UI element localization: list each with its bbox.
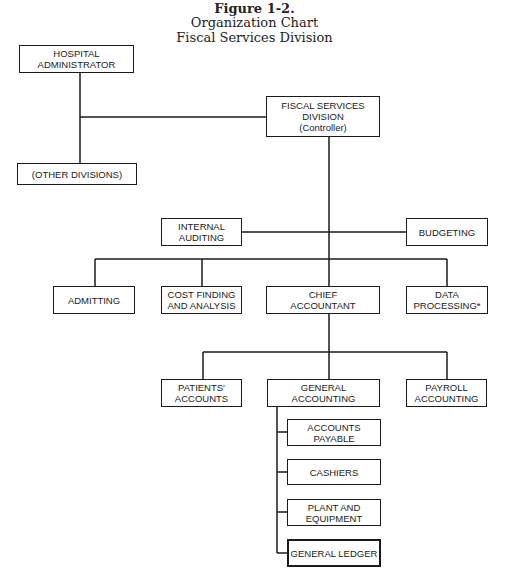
node-label: PATIENTS' ACCOUNTS [175,382,228,404]
node-label: (OTHER DIVISIONS) [32,169,122,180]
node-accounts-payable: ACCOUNTS PAYABLE [287,419,381,446]
node-label: PAYROLL ACCOUNTING [415,382,479,404]
node-label: GENERAL LEDGER [291,548,378,559]
node-fiscal-services-division: FISCAL SERVICES DIVISION (Controller) [266,96,380,137]
node-data-processing: DATA PROCESSING* [406,286,488,314]
node-label: BUDGETING [419,227,475,238]
node-label: INTERNAL AUDITING [178,221,225,243]
node-label: ACCOUNTS PAYABLE [307,422,360,444]
node-label: DATA PROCESSING* [413,289,480,311]
node-label: PLANT AND EQUIPMENT [306,502,362,524]
node-general-accounting: GENERAL ACCOUNTING [267,379,380,407]
node-cost-finding-analysis: COST FINDING AND ANALYSIS [161,286,242,314]
node-general-ledger: GENERAL LEDGER [287,539,381,567]
node-other-divisions: (OTHER DIVISIONS) [17,163,137,185]
node-label: COST FINDING AND ANALYSIS [168,289,236,311]
node-label: HOSPITAL ADMINISTRATOR [38,48,116,70]
node-label: CHIEF ACCOUNTANT [290,289,355,311]
node-plant-and-equipment: PLANT AND EQUIPMENT [287,499,381,526]
node-internal-auditing: INTERNAL AUDITING [161,218,242,246]
node-payroll-accounting: PAYROLL ACCOUNTING [406,379,487,407]
node-cashiers: CASHIERS [287,459,381,485]
node-budgeting: BUDGETING [406,218,488,246]
node-patients-accounts: PATIENTS' ACCOUNTS [161,379,242,407]
node-admitting: ADMITTING [53,286,135,314]
node-label: CASHIERS [310,467,359,478]
node-hospital-administrator: HOSPITAL ADMINISTRATOR [19,45,134,73]
node-label: GENERAL ACCOUNTING [292,382,356,404]
node-label: ADMITTING [68,295,120,306]
node-label: FISCAL SERVICES DIVISION (Controller) [281,100,364,133]
node-chief-accountant: CHIEF ACCOUNTANT [266,286,380,314]
